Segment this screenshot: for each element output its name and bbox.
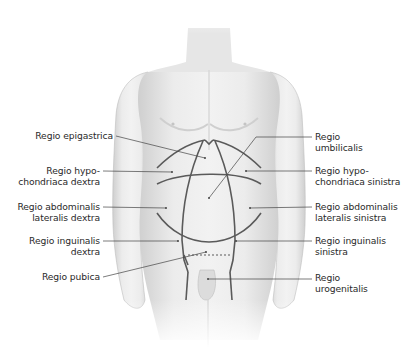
abdominal-regions-diagram: Regio epigastrica Regio hypo- chondriaca… [0,0,418,348]
label-regio-inguinalis-sinistra: Regio inguinalis sinistra [315,235,386,257]
neck [148,28,270,72]
label-regio-abdominalis-lateralis-dextra: Regio abdominalis lateralis dextra [17,201,100,223]
label-regio-inguinalis-dextra: Regio inguinalis dextra [29,235,100,257]
label-regio-epigastrica: Regio epigastrica [35,130,113,141]
label-regio-abdominalis-lateralis-sinistra: Regio abdominalis lateralis sinistra [315,201,398,223]
label-regio-hypochondriaca-dextra: Regio hypo- chondriaca dextra [18,165,100,187]
label-regio-hypochondriaca-sinistra: Regio hypo- chondriaca sinistra [315,165,400,187]
genital [198,270,216,300]
label-regio-umbilicalis: Regio umbilicalis [315,131,363,153]
label-regio-pubica: Regio pubica [42,271,100,282]
label-regio-urogenitalis: Regio urogenitalis [315,272,368,294]
